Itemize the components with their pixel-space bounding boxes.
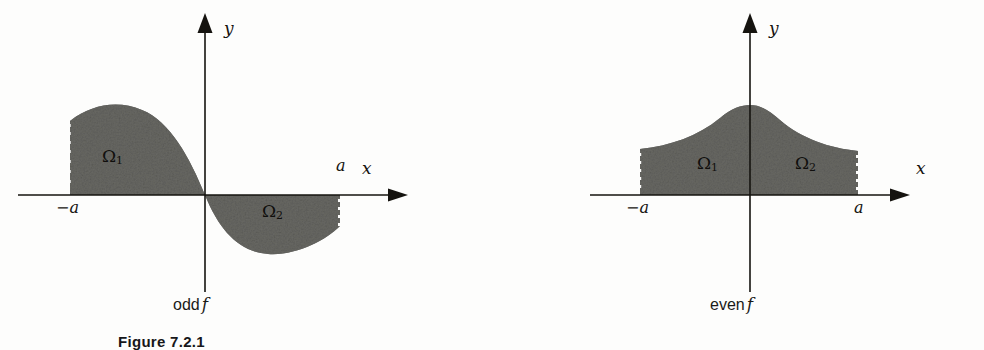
region-label-omega-1: Ω1 <box>697 155 718 173</box>
y-axis-label: y <box>769 20 779 37</box>
x-tick-label-minus-a: −a <box>56 200 79 216</box>
panel-caption-odd-text: odd <box>173 296 200 313</box>
omega-1-symbol: Ω <box>697 153 711 173</box>
x-axis-label: x <box>362 160 372 177</box>
y-axis-label: y <box>224 20 234 37</box>
omega-1-symbol: Ω <box>102 146 116 166</box>
omega-2-index: 2 <box>276 209 283 222</box>
omega-1-index: 1 <box>711 161 718 174</box>
panel-caption-even-text: even <box>710 296 745 313</box>
panel-caption-even: evenf <box>710 296 753 313</box>
region-label-omega-2: Ω2 <box>795 155 816 173</box>
omega-2-symbol: Ω <box>795 153 809 173</box>
region-label-omega-2: Ω2 <box>262 203 283 221</box>
figure-container: y x −a a Ω1 Ω2 oddf <box>0 0 984 350</box>
omega-2-symbol: Ω <box>262 201 276 221</box>
diagram-even-function: y x −a a Ω1 Ω2 evenf <box>492 0 984 350</box>
y-axis <box>198 13 213 292</box>
panel-caption-odd-symbol: f <box>200 294 208 314</box>
region-label-omega-1: Ω1 <box>102 148 123 166</box>
omega-2-index: 2 <box>809 161 816 174</box>
x-tick-label-a: a <box>336 158 346 174</box>
x-axis-label: x <box>916 160 926 177</box>
omega-1-index: 1 <box>116 154 123 167</box>
diagram-odd-function: y x −a a Ω1 Ω2 oddf <box>0 0 492 350</box>
panel-caption-even-symbol: f <box>745 294 753 314</box>
x-tick-label-minus-a: −a <box>626 200 649 216</box>
region-omega-1-shape <box>60 90 220 205</box>
x-tick-label-a: a <box>854 200 864 216</box>
odd-function-plot <box>0 0 492 350</box>
figure-caption: Figure 7.2.1 <box>118 333 205 350</box>
panel-caption-odd: oddf <box>173 296 208 313</box>
